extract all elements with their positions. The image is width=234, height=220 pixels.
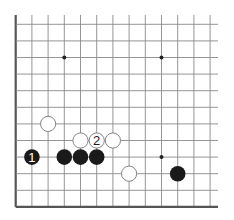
star-point-icon xyxy=(160,56,164,60)
white-stone-icon xyxy=(122,166,137,181)
white-stone-icon xyxy=(105,133,120,148)
white-stone xyxy=(41,116,56,131)
white-stone-move-2: 2 xyxy=(89,133,104,148)
black-stone-move-1: 1 xyxy=(24,149,40,165)
black-stone xyxy=(73,149,89,165)
move-number-label: 1 xyxy=(28,150,35,165)
star-point-icon xyxy=(62,56,66,60)
white-stone-icon xyxy=(41,116,56,131)
move-number-label: 2 xyxy=(93,133,100,148)
black-stone-icon xyxy=(57,149,73,165)
star-point-icon xyxy=(160,155,164,159)
black-stone-icon xyxy=(170,166,186,182)
black-stone-icon xyxy=(89,149,105,165)
black-stone xyxy=(57,149,73,165)
white-stone xyxy=(73,133,88,148)
white-stone xyxy=(105,133,120,148)
white-stone xyxy=(122,166,137,181)
black-stone xyxy=(89,149,105,165)
white-stone-icon xyxy=(73,133,88,148)
grid-lines xyxy=(16,15,218,207)
black-stone-icon xyxy=(73,149,89,165)
go-board-diagram: 21 xyxy=(0,0,234,220)
black-stone xyxy=(170,166,186,182)
